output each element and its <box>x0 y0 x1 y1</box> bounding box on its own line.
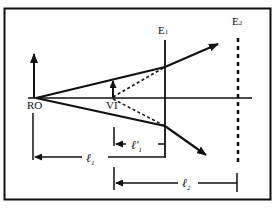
upper-ray <box>36 44 218 98</box>
lower-ray <box>36 98 206 155</box>
label-l1: ℓ1 <box>86 151 95 167</box>
label-l2: ℓ2 <box>182 176 191 192</box>
optics-diagram: RO VI E1 E2 ℓ1 ℓ'1 ℓ2 <box>0 0 280 208</box>
label-e1: E1 <box>158 24 169 36</box>
virtual-ray-lower <box>113 99 165 126</box>
virtual-ray-upper <box>113 67 165 97</box>
label-real-object: RO <box>27 99 42 111</box>
label-virtual-image: VI <box>106 99 118 111</box>
label-e2: E2 <box>232 15 243 27</box>
frame <box>5 9 271 200</box>
label-l1-prime: ℓ'1 <box>131 138 142 154</box>
